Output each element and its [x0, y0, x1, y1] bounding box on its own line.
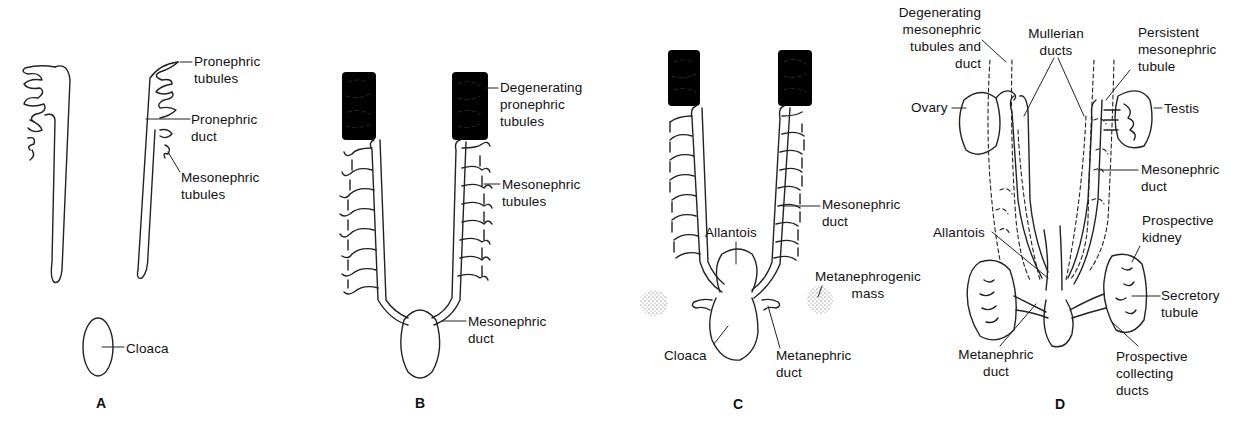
diagram-line-art — [0, 0, 1252, 425]
label-line: Mesonephric — [181, 169, 259, 186]
label-d-allantois: Allantois — [933, 224, 985, 241]
label-c-metanephrogenic-mass: Metanephrogenic mass — [815, 268, 921, 302]
label-line: Pronephric — [191, 111, 257, 128]
label-line: duct — [468, 330, 546, 347]
label-line: Prospective — [1142, 212, 1214, 229]
label-d-persistent-mesonephric-tubule: Persistent mesonephric tubule — [1138, 24, 1216, 75]
label-c-allantois: Allantois — [705, 224, 757, 241]
panel-letter-c: C — [733, 396, 743, 412]
label-line: duct — [191, 128, 257, 145]
label-line: collecting — [1116, 365, 1188, 382]
label-d-prospective-collecting-ducts: Prospective collecting ducts — [1116, 348, 1188, 399]
label-line: Metanephrogenic — [815, 268, 921, 285]
label-line: duct — [822, 213, 900, 230]
panel-letter-b: B — [415, 395, 425, 411]
label-line: tubules and — [886, 38, 981, 55]
label-a-pronephric-duct: Pronephric duct — [191, 111, 257, 145]
label-line: pronephric — [500, 96, 582, 113]
label-line: ducts — [1020, 42, 1092, 59]
label-line: mesonephric — [886, 21, 981, 38]
label-line: Secretory — [1161, 287, 1220, 304]
panel-a-art — [23, 62, 192, 376]
label-line: tubules — [194, 70, 260, 87]
label-b-degenerating-pronephric-tubules: Degenerating pronephric tubules — [500, 79, 582, 130]
label-line: Mesonephric — [1141, 161, 1219, 178]
label-line: Metanephric — [946, 346, 1046, 363]
label-line: tubule — [1138, 58, 1216, 75]
kidney-development-figure: Pronephric tubules Pronephric duct Meson… — [0, 0, 1252, 425]
label-d-mesonephric-duct: Mesonephric duct — [1141, 161, 1219, 195]
label-line: duct — [886, 55, 981, 72]
label-c-metanephric-duct: Metanephric duct — [776, 347, 851, 381]
label-line: duct — [776, 364, 851, 381]
label-b-mesonephric-duct: Mesonephric duct — [468, 313, 546, 347]
label-a-pronephric-tubules: Pronephric tubules — [194, 53, 260, 87]
label-d-prospective-kidney: Prospective kidney — [1142, 212, 1214, 246]
label-line: ducts — [1116, 382, 1188, 399]
label-line: Degenerating — [886, 4, 981, 21]
label-line: Pronephric — [194, 53, 260, 70]
label-line: Mesonephric — [468, 313, 546, 330]
label-line: tubules — [502, 193, 580, 210]
label-line: duct — [946, 363, 1046, 380]
panel-d-art — [952, 40, 1162, 347]
label-line: Degenerating — [500, 79, 582, 96]
label-d-mullerian-ducts: Mullerian ducts — [1020, 25, 1092, 59]
label-line: tubules — [500, 113, 582, 130]
label-line: Metanephric — [776, 347, 851, 364]
label-a-mesonephric-tubules: Mesonephric tubules — [181, 169, 259, 203]
label-b-mesonephric-tubules: Mesonephric tubules — [502, 176, 580, 210]
label-c-mesonephric-duct: Mesonephric duct — [822, 196, 900, 230]
label-line: tubules — [181, 186, 259, 203]
label-line: mass — [815, 285, 921, 302]
label-d-degenerating-mesonephric: Degenerating mesonephric tubules and duc… — [886, 4, 981, 72]
label-line: Mullerian — [1020, 25, 1092, 42]
label-line: Prospective — [1116, 348, 1188, 365]
label-d-metanephric-duct: Metanephric duct — [946, 346, 1046, 380]
label-c-cloaca: Cloaca — [664, 347, 707, 364]
label-d-secretory-tubule: Secretory tubule — [1161, 287, 1220, 321]
label-line: duct — [1141, 178, 1219, 195]
label-line: mesonephric — [1138, 41, 1216, 58]
panel-letter-a: A — [96, 395, 106, 411]
label-d-testis: Testis — [1164, 100, 1199, 117]
label-d-ovary: Ovary — [911, 99, 948, 116]
panel-letter-d: D — [1055, 396, 1065, 412]
label-line: kidney — [1142, 229, 1214, 246]
label-a-cloaca: Cloaca — [126, 340, 169, 357]
label-line: Persistent — [1138, 24, 1216, 41]
label-line: Mesonephric — [502, 176, 580, 193]
label-line: Mesonephric — [822, 196, 900, 213]
label-line: tubule — [1161, 304, 1220, 321]
panel-c-art — [640, 50, 833, 360]
